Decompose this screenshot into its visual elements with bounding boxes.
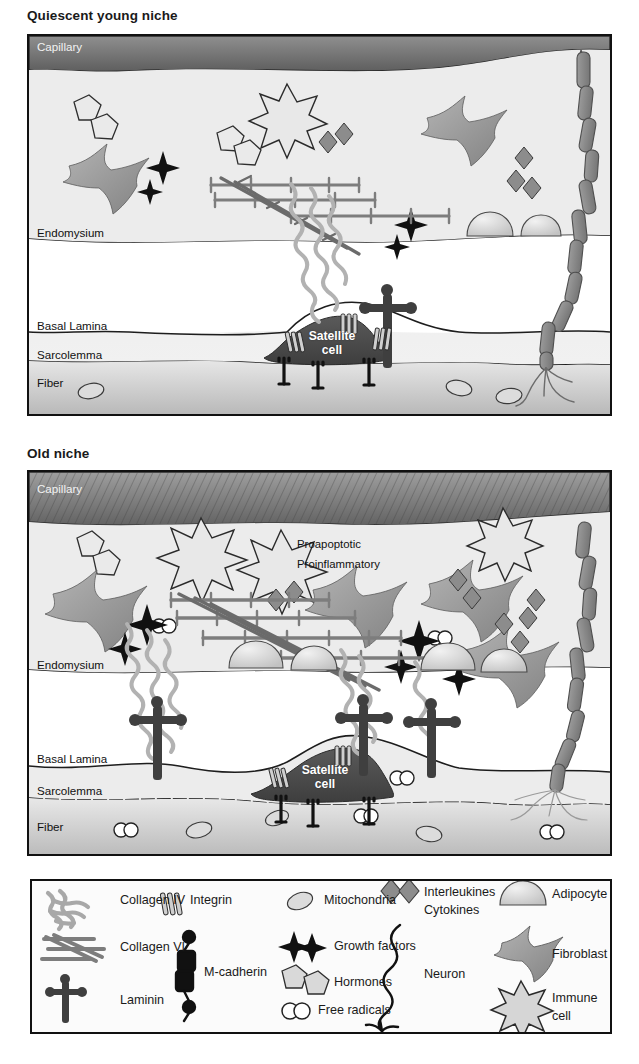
satellite-cell-label-line1-2: Satellite [287, 764, 363, 777]
legend-label-neuron: Neuron [424, 967, 465, 982]
zone-label-sarcolemma-1: Sarcolemma [37, 348, 102, 361]
free-radicals-icon [282, 1003, 310, 1019]
legend-label-integrin: Integrin [190, 893, 232, 908]
satellite-cell-label-line2-2: cell [287, 778, 363, 791]
legend-label-hormones: Hormones [334, 975, 392, 990]
laminin-icon [45, 974, 87, 1023]
zone-label-fiber-1: Fiber [37, 376, 63, 389]
legend-label-immune-cell-line1: Immune [552, 991, 598, 1006]
legend-label-immune-cell-line2: cell [552, 1009, 571, 1024]
panel-title-quiescent-young-niche: Quiescent young niche [27, 8, 178, 23]
panel-title-old-niche: Old niche [27, 446, 89, 461]
panel-quiescent-young-niche: Capillary Endomysium Basal Lamina Sarcol… [27, 34, 612, 416]
zone-label-basal-lamina-2: Basal Lamina [37, 752, 107, 765]
legend-label-collagen-vi: Collagen VI [120, 940, 185, 955]
zone-label-capillary-1: Capillary [37, 40, 82, 53]
legend-label-collagen-iv: Collagen IV [120, 893, 185, 908]
zone-label-endomysium-2: Endomysium [37, 658, 104, 671]
growth-factors-icon [278, 931, 327, 963]
legend-box: Collagen IV Collagen VI Laminin Integrin… [30, 879, 612, 1034]
satellite-cell-label-line2-1: cell [297, 344, 367, 357]
satellite-cell-label-line1-1: Satellite [297, 330, 367, 343]
panel-2-illustration [29, 472, 610, 854]
zone-label-fiber-2: Fiber [37, 820, 63, 833]
free-radical-glyph [114, 823, 138, 837]
free-radical-glyph [390, 771, 414, 785]
zone-label-basal-lamina-1: Basal Lamina [37, 319, 107, 332]
free-radical-glyph [354, 809, 378, 823]
zone-label-capillary-2: Capillary [37, 482, 82, 495]
legend-label-interleukines: Interleukines [424, 885, 495, 900]
panel-old-niche: Capillary Endomysium Basal Lamina Sarcol… [27, 470, 612, 856]
legend-label-growth-factors: Growth factors [334, 939, 416, 954]
legend-label-laminin: Laminin [120, 993, 164, 1008]
legend-label-fibroblast: Fibroblast [552, 947, 607, 962]
free-radical-glyph [540, 825, 564, 839]
annotation-proapoptotic: Proapoptotic [297, 538, 361, 550]
legend-label-m-cadherin: M-cadherin [204, 965, 267, 980]
collagen-vi-icon [42, 935, 104, 961]
adipocyte-icon [500, 881, 546, 905]
annotation-proinflammatory: Proinflammatory [297, 558, 380, 570]
mitochondria-icon [285, 889, 315, 913]
legend-label-cytokines: Cytokines [424, 903, 479, 918]
panel-1-illustration [29, 36, 610, 414]
legend-label-adipocyte: Adipocyte [552, 887, 607, 902]
collagen-iv-icon [48, 891, 88, 929]
legend-label-mitochondria: Mitochondria [324, 893, 396, 908]
zone-label-sarcolemma-2: Sarcolemma [37, 784, 102, 797]
hormones-icon [282, 965, 329, 994]
legend-label-free-radicals: Free radicals [318, 1003, 391, 1018]
zone-label-endomysium-1: Endomysium [37, 226, 104, 239]
immune-cell-icon [491, 981, 553, 1032]
